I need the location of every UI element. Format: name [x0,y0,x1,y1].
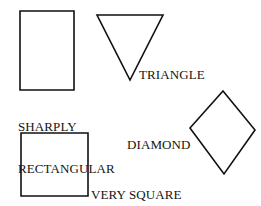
label-triangle: TRIANGLE [139,68,205,82]
label-very-square: VERY SQUARE [91,188,182,202]
shapes-diagram-canvas: SHARPLY RECTANGULAR TRIANGLE DIAMOND VER… [0,0,261,206]
tall-rectangle-shape [20,11,74,90]
label-sharply-rectangular-line2: RECTANGULAR [18,162,115,176]
diamond-shape [190,91,255,174]
label-sharply-rectangular-line1: SHARPLY [18,120,115,134]
label-diamond: DIAMOND [127,138,191,152]
